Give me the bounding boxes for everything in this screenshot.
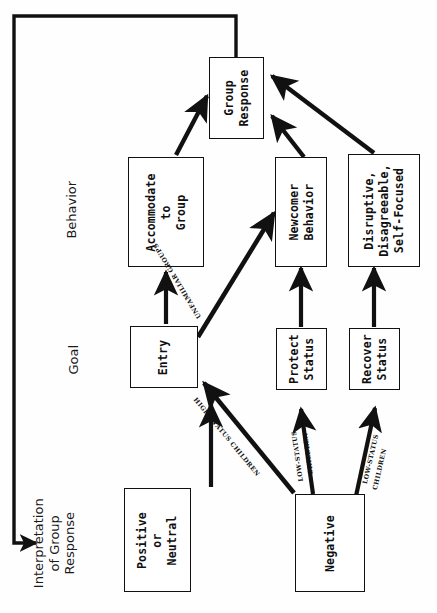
node-positive-or-neutral-text: Positive or Neutral [135, 512, 180, 569]
caption-line: Response [62, 498, 78, 588]
node-line: Group [222, 70, 237, 127]
caption-interpretation-text: Interpretation of Group Response [31, 498, 78, 588]
arrow-entry-to-newcomer [198, 213, 274, 337]
node-line: Status [302, 334, 317, 384]
caption-line: Interpretation [31, 498, 47, 588]
feedback-loop-arrow [14, 16, 236, 543]
arrow-accommodate-to-group-response [176, 96, 207, 155]
node-line: Entry [157, 339, 172, 375]
arrow-newcomer-to-group-response [272, 116, 304, 157]
node-positive-or-neutral[interactable]: Positive or Neutral [124, 488, 191, 592]
node-line: Accommodate [144, 173, 159, 251]
node-line: Protect [287, 334, 302, 384]
node-line: Neutral [165, 512, 180, 569]
node-line: Positive [135, 512, 150, 569]
node-line: Recover [360, 334, 375, 384]
node-line: Self-Focused [392, 164, 407, 257]
node-recover-status-text: Recover Status [360, 334, 390, 384]
node-line: Disruptive, [362, 164, 377, 257]
node-recover-status[interactable]: Recover Status [349, 328, 400, 390]
node-line: Response [237, 70, 252, 127]
node-line: Status [375, 334, 390, 384]
node-negative-text: Negative [323, 515, 338, 572]
caption-line: Goal [66, 345, 82, 375]
node-group-response[interactable]: Group Response [209, 57, 264, 139]
node-disruptive-disagreeable-self-focused[interactable]: Disruptive, Disagreeable, Self-Focused [348, 154, 420, 267]
arrow-negative-to-entry [204, 383, 294, 493]
node-line: Disagreeable, [377, 164, 392, 257]
node-line: or [150, 512, 165, 569]
node-line: Negative [323, 515, 338, 572]
node-newcomer-behavior[interactable]: Newcomer Behavior [275, 157, 327, 267]
node-line: to [159, 173, 174, 251]
caption-line: Behavior [64, 181, 80, 239]
node-line: Newcomer [286, 184, 301, 241]
node-entry-text: Entry [157, 339, 172, 375]
caption-behavior: Behavior [52, 170, 92, 250]
node-line: Group [174, 173, 189, 251]
node-entry[interactable]: Entry [130, 326, 198, 388]
caption-behavior-text: Behavior [64, 181, 80, 239]
arrow-disruptive-to-group-response [272, 76, 374, 153]
caption-goal-text: Goal [66, 345, 82, 375]
node-accommodate-to-group[interactable]: Accommodate to Group [128, 157, 204, 267]
node-disruptive-text: Disruptive, Disagreeable, Self-Focused [362, 164, 407, 257]
diagram-canvas: Interpretation of Group Response Goal Be… [0, 0, 437, 613]
node-line: Behavior [301, 184, 316, 241]
node-newcomer-behavior-text: Newcomer Behavior [286, 184, 316, 241]
node-protect-status[interactable]: Protect Status [276, 328, 327, 390]
node-group-response-text: Group Response [222, 70, 252, 127]
caption-goal: Goal [54, 330, 94, 390]
caption-interpretation-of-group-response: Interpretation of Group Response [26, 478, 82, 608]
node-negative[interactable]: Negative [295, 494, 365, 592]
node-accommodate-to-group-text: Accommodate to Group [144, 173, 189, 251]
caption-line: of Group [46, 498, 62, 588]
node-protect-status-text: Protect Status [287, 334, 317, 384]
